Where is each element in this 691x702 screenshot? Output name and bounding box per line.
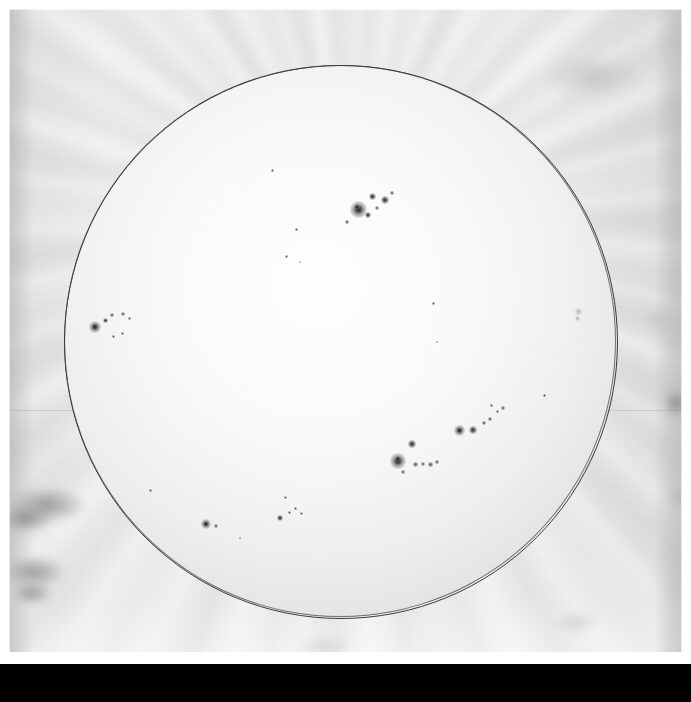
- plate-defect-lower-left-smudge-tail: [12, 582, 52, 604]
- sunspot: [285, 255, 288, 258]
- sunspot: [299, 261, 301, 263]
- sunspot: [436, 341, 438, 343]
- plate-defect-right-edge-smudge-low: [668, 488, 684, 508]
- sunspot-group-scattered-pores: [8, 4, 684, 652]
- bottom-black-band: [0, 664, 691, 702]
- plate-emulsion: [8, 4, 684, 652]
- sunspot: [432, 302, 435, 305]
- plate-defect-bottom-smudge-right: [556, 614, 596, 630]
- plate-defect-right-edge-smudge-top: [646, 312, 668, 328]
- plate-defect-right-edge-smudge-mid: [664, 390, 684, 416]
- scan-sheet: [0, 0, 691, 664]
- sunspot: [239, 537, 241, 539]
- plate-defect-top-right-haze: [548, 56, 638, 96]
- sunspot: [543, 394, 546, 397]
- sunspot: [295, 228, 298, 231]
- sunspot: [284, 496, 287, 499]
- plate-defect-bottom-smudge-center: [300, 640, 352, 652]
- solar-plate-viewer: Solar disk with sunspot groups solar-pho…: [0, 0, 691, 702]
- sunspot: [149, 489, 152, 492]
- sunspot: [271, 169, 274, 172]
